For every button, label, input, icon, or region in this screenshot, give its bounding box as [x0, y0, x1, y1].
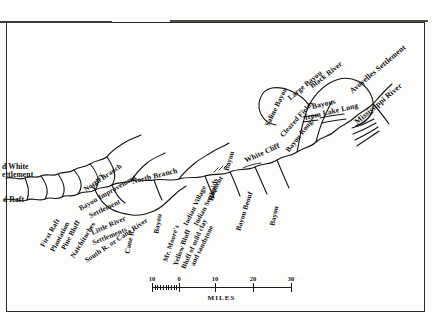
scale-tick: [291, 283, 292, 292]
scale-bar: 100102030 MILES: [152, 277, 291, 307]
scale-minor-tick: [176, 285, 177, 290]
scale-minor-tick: [166, 285, 167, 290]
scale-tick: [152, 283, 153, 292]
scale-minor-tick: [168, 285, 169, 290]
scale-tick-label: 0: [177, 275, 180, 282]
scale-tick: [179, 283, 180, 292]
scale-minor-tick: [174, 285, 175, 290]
scale-minor-tick: [157, 285, 158, 290]
scale-tick: [215, 283, 216, 292]
historical-map: d Whiteettlementd RaftFirst RaftPlantati…: [0, 0, 448, 327]
scale-tick-label: 10: [212, 275, 219, 282]
scale-minor-tick: [160, 285, 161, 290]
scale-bar-caption: MILES: [207, 294, 235, 302]
scale-tick: [253, 283, 254, 292]
scale-minor-tick: [155, 285, 156, 290]
scale-tick-label: 10: [149, 275, 156, 282]
scale-tick-label: 20: [250, 275, 257, 282]
map-label-second-raft: d Raft: [3, 196, 24, 204]
scale-minor-tick: [171, 285, 172, 290]
scale-minor-tick: [163, 285, 164, 290]
scale-tick-label: 30: [288, 275, 295, 282]
map-label-second-white-settlement: d Whiteettlement: [2, 163, 33, 179]
